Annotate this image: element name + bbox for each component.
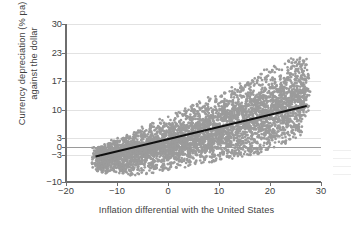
- scatter-point: [110, 139, 113, 142]
- scatter-point: [306, 69, 309, 72]
- scatter-point: [290, 62, 293, 65]
- scatter-point: [304, 115, 307, 118]
- scatter-point: [263, 124, 266, 127]
- scatter-point: [298, 60, 301, 63]
- scatter-point: [189, 154, 192, 157]
- scatter-point: [226, 127, 229, 130]
- scatter-point: [248, 113, 251, 116]
- scatter-point: [249, 124, 252, 127]
- scatter-point: [158, 118, 161, 121]
- scatter-point: [274, 100, 277, 103]
- scatter-point: [265, 125, 268, 128]
- scatter-point: [259, 77, 262, 80]
- scatter-point: [194, 115, 197, 118]
- scatter-point: [231, 149, 234, 152]
- scatter-point: [211, 153, 214, 156]
- scatter-point: [228, 151, 231, 154]
- scatter-point: [274, 141, 277, 144]
- scatter-point: [253, 152, 256, 155]
- scatter-point: [278, 94, 281, 97]
- scatter-point: [169, 119, 172, 122]
- scatter-point: [288, 60, 291, 63]
- scatter-point: [204, 113, 207, 116]
- scatter-point: [249, 93, 252, 96]
- scatter-point: [247, 93, 250, 96]
- scatter-point: [176, 115, 179, 118]
- scatter-point: [217, 119, 220, 122]
- scatter-point: [253, 128, 256, 131]
- scatter-point: [260, 138, 263, 141]
- scatter-point: [284, 113, 287, 116]
- scatter-point: [227, 139, 230, 142]
- scatter-point: [127, 137, 130, 140]
- scatter-point: [212, 149, 215, 152]
- scatter-point: [166, 141, 169, 144]
- scatter-point: [212, 133, 215, 136]
- scatter-point: [198, 100, 201, 103]
- scatter-point: [305, 87, 308, 90]
- page-bleed-artifact: [333, 150, 351, 208]
- scatter-point: [248, 141, 251, 144]
- scatter-point: [134, 174, 137, 177]
- scatter-point: [157, 136, 160, 139]
- scatter-point: [249, 154, 252, 157]
- scatter-point: [265, 81, 268, 84]
- scatter-point: [294, 129, 297, 132]
- scatter-point: [234, 102, 237, 105]
- scatter-point: [256, 140, 259, 143]
- scatter-point: [285, 87, 288, 90]
- scatter-point: [200, 123, 203, 126]
- scatter-point: [221, 105, 224, 108]
- scatter-point: [292, 73, 295, 76]
- scatter-point: [208, 161, 211, 164]
- scatter-point: [238, 139, 241, 142]
- scatter-point: [152, 126, 155, 129]
- scatter-point: [161, 165, 164, 168]
- scatter-point: [294, 137, 297, 140]
- scatter-point: [250, 138, 253, 141]
- scatter-point: [309, 90, 312, 93]
- scatter-point: [96, 151, 99, 154]
- scatter-point: [244, 109, 247, 112]
- scatter-point: [252, 98, 255, 101]
- scatter-point: [250, 102, 253, 105]
- scatter-point: [137, 159, 140, 162]
- scatter-point: [271, 139, 274, 142]
- scatter-point: [307, 105, 310, 108]
- scatter-point: [302, 96, 305, 99]
- scatter-point: [271, 76, 274, 79]
- scatter-point: [195, 159, 198, 162]
- scatter-point: [186, 139, 189, 142]
- scatter-point: [174, 156, 177, 159]
- bleed-line: [333, 174, 351, 175]
- scatter-point: [211, 123, 214, 126]
- scatter-point: [194, 109, 197, 112]
- scatter-point: [264, 104, 267, 107]
- scatter-point: [198, 125, 201, 128]
- scatter-point: [255, 104, 258, 107]
- scatter-point: [149, 127, 152, 130]
- scatter-point: [279, 78, 282, 81]
- scatter-point: [112, 169, 115, 172]
- scatter-point: [91, 166, 94, 169]
- scatter-point: [270, 70, 273, 73]
- scatter-point: [270, 107, 273, 110]
- scatter-point: [227, 130, 230, 133]
- scatter-point: [261, 101, 264, 104]
- scatter-point: [117, 157, 120, 160]
- scatter-point: [183, 110, 186, 113]
- scatter-point: [273, 129, 276, 132]
- scatter-point: [215, 157, 218, 160]
- scatter-point: [223, 151, 226, 154]
- scatter-point: [168, 148, 171, 151]
- scatter-point: [156, 160, 159, 163]
- scatter-point: [174, 117, 177, 120]
- scatter-point: [223, 147, 226, 150]
- scatter-point: [149, 123, 152, 126]
- scatter-point: [294, 101, 297, 104]
- scatter-point: [109, 169, 112, 172]
- scatter-point: [184, 113, 187, 116]
- scatter-point: [300, 92, 303, 95]
- scatter-point: [300, 120, 303, 123]
- scatter-point: [214, 95, 217, 98]
